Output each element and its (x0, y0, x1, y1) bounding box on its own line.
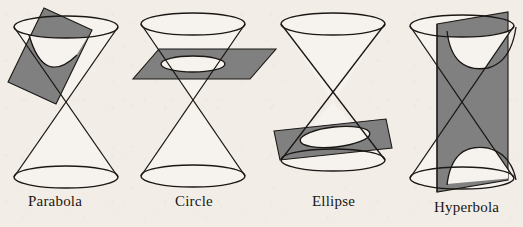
panel-parabola (8, 8, 118, 188)
label-hyperbola: Hyperbola (434, 199, 499, 216)
label-ellipse: Ellipse (312, 193, 355, 210)
circle-cone-lower-nappe (141, 102, 245, 187)
panel-hyperbola (410, 12, 516, 192)
panel-ellipse (274, 13, 392, 171)
panel-circle (133, 13, 276, 187)
label-parabola: Parabola (28, 193, 82, 210)
label-circle: Circle (175, 193, 213, 210)
ellipse-cone-upper-nappe (281, 13, 385, 102)
parabola-cone-lower-nappe (14, 102, 118, 188)
circle-section-face (161, 56, 225, 72)
